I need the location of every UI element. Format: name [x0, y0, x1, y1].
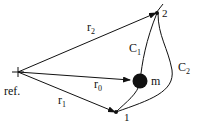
label-ref: ref. — [4, 84, 20, 98]
label-c1: C1 — [129, 41, 141, 57]
label-point-2: 2 — [162, 7, 168, 19]
point-1-dot — [114, 110, 118, 114]
label-r1: r1 — [58, 93, 66, 109]
label-point-1: 1 — [124, 111, 130, 123]
label-r0: r0 — [94, 77, 102, 93]
mass-m — [133, 74, 148, 89]
label-m: m — [151, 74, 161, 88]
label-r2: r2 — [87, 20, 95, 36]
path-independence-diagram: ref. r2 r0 r1 C1 C2 m 2 1 — [0, 0, 198, 128]
point-2-dot — [155, 11, 159, 15]
curve-c2 — [116, 13, 172, 112]
label-c2: C2 — [178, 60, 190, 76]
diagram-svg: ref. r2 r0 r1 C1 C2 m 2 1 — [0, 0, 198, 128]
